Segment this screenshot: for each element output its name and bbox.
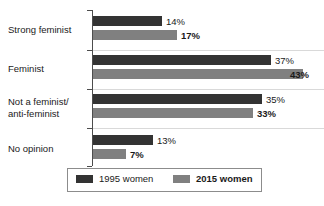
- bar-value-1995-strong-feminist: 14%: [166, 17, 185, 27]
- gridline: [92, 128, 324, 129]
- bar-2015-strong-feminist: [93, 30, 177, 40]
- category-label-feminist: Feminist: [8, 63, 88, 75]
- category-label-not-a-feminist: Not a feminist/ anti-feminist: [8, 96, 88, 119]
- legend-label-2015-women: 2015 women: [196, 174, 253, 184]
- bar-value-1995-not-a-feminist: 35%: [266, 95, 285, 105]
- axis-tick: [87, 10, 92, 11]
- axis-tick: [87, 50, 92, 51]
- bar-1995-feminist: [93, 55, 271, 65]
- bar-1995-no-opinion: [93, 135, 153, 145]
- category-label-strong-feminist: Strong feminist: [8, 24, 88, 36]
- axis-tick: [87, 89, 92, 90]
- category-label-no-opinion: No opinion: [8, 143, 88, 155]
- legend-label-1995-women: 1995 women: [99, 174, 153, 184]
- gridline: [92, 89, 324, 90]
- bar-2015-feminist: [93, 69, 303, 79]
- plot-area: Strong feminist 14% 17% Feminist 37% 43%…: [0, 0, 324, 170]
- axis-tick: [87, 128, 92, 129]
- axis-tick: [87, 166, 92, 167]
- legend: 1995 women 2015 women: [67, 168, 262, 192]
- legend-item-1995-women[interactable]: 1995 women: [76, 174, 153, 184]
- bar-chart: Strong feminist 14% 17% Feminist 37% 43%…: [0, 0, 324, 206]
- bar-value-2015-feminist: 43%: [290, 70, 309, 80]
- gridline: [92, 50, 324, 51]
- bar-1995-not-a-feminist: [93, 94, 262, 104]
- bar-value-2015-strong-feminist: 17%: [181, 31, 200, 41]
- bar-2015-no-opinion: [93, 149, 126, 159]
- legend-swatch-icon: [76, 175, 93, 183]
- legend-swatch-icon: [173, 175, 190, 183]
- bar-value-1995-feminist: 37%: [275, 56, 294, 66]
- bar-value-1995-no-opinion: 13%: [157, 136, 176, 146]
- bar-value-2015-not-a-feminist: 33%: [257, 109, 276, 119]
- legend-item-2015-women[interactable]: 2015 women: [173, 174, 253, 184]
- bar-1995-strong-feminist: [93, 16, 162, 26]
- bar-2015-not-a-feminist: [93, 108, 253, 118]
- bar-value-2015-no-opinion: 7%: [130, 150, 144, 160]
